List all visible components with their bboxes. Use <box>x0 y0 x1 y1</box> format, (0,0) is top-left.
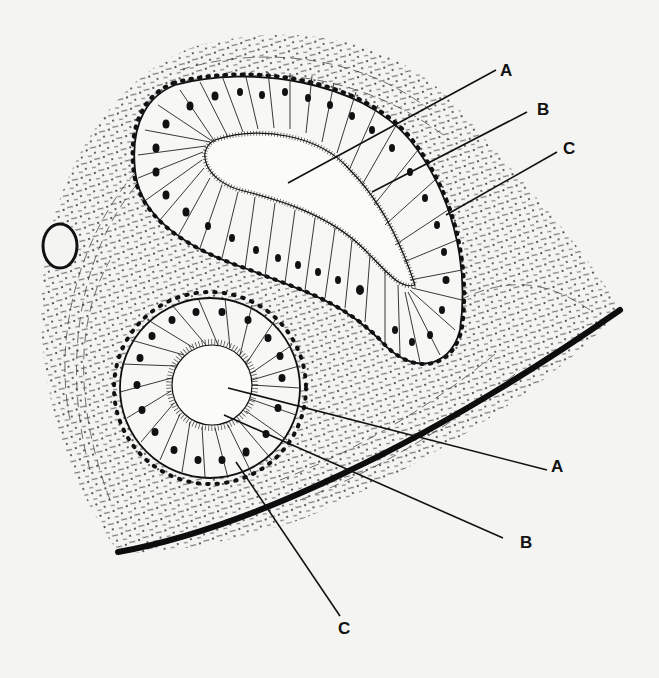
label-lower-c: C <box>338 620 350 637</box>
label-upper-a: A <box>500 62 512 79</box>
small-vessel <box>43 224 77 268</box>
histology-diagram <box>0 0 659 678</box>
lower-gland-lumen <box>172 345 252 425</box>
label-upper-b: B <box>537 101 549 118</box>
label-lower-b: B <box>520 534 532 551</box>
label-lower-a: A <box>551 458 563 475</box>
label-upper-c: C <box>563 140 575 157</box>
